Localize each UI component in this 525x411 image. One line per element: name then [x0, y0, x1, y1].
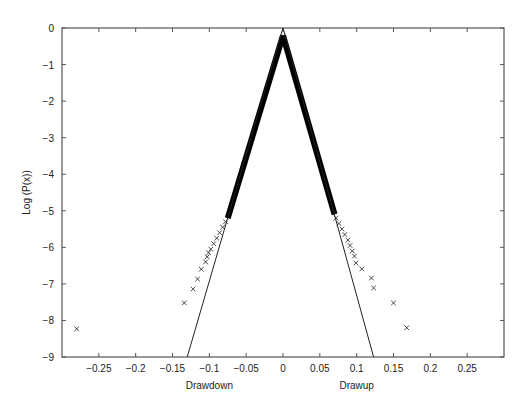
y-tick-label: −7 — [43, 279, 55, 290]
data-point-x-marker — [350, 249, 355, 254]
data-point-x-marker — [404, 325, 409, 330]
y-tick-label: −5 — [43, 206, 55, 217]
y-tick-label: −4 — [43, 169, 55, 180]
data-point-x-marker — [371, 286, 376, 291]
fit-line — [187, 28, 283, 357]
data-point-x-marker — [74, 327, 79, 332]
data-point-x-marker — [391, 301, 396, 306]
data-point-x-marker — [352, 254, 357, 259]
fit-line — [283, 28, 374, 357]
y-tick-label: −3 — [43, 133, 55, 144]
x-tick-label: 0.2 — [423, 363, 437, 374]
data-point-x-marker — [369, 276, 374, 281]
y-tick-label: −8 — [43, 315, 55, 326]
data-point-x-marker — [340, 227, 345, 232]
plot-border — [62, 28, 504, 357]
data-point-x-marker — [211, 241, 216, 246]
x-tick-label: −0.2 — [126, 363, 146, 374]
x-tick-label: 0 — [280, 363, 286, 374]
x-tick-label: 0.1 — [350, 363, 364, 374]
x-tick-label: −0.15 — [160, 363, 186, 374]
x-tick-label: 0.05 — [310, 363, 330, 374]
y-axis-label: Log (P(x)) — [21, 170, 32, 214]
chart: −0.25−0.2−0.15−0.1−0.0500.050.10.150.20.… — [0, 0, 525, 411]
data-point-x-marker — [343, 232, 348, 237]
x-tick-label: 0.25 — [457, 363, 477, 374]
y-tick-label: −6 — [43, 242, 55, 253]
x-axis-label-drawdown: Drawdown — [186, 380, 233, 391]
data-point-x-marker — [217, 230, 222, 235]
x-tick-label: −0.05 — [234, 363, 260, 374]
x-tick-label: −0.25 — [86, 363, 112, 374]
y-tick-label: −2 — [43, 96, 55, 107]
data-point-x-marker — [203, 260, 208, 265]
data-point-x-marker — [182, 301, 187, 306]
data-point-x-marker — [191, 287, 196, 292]
plot-frame — [62, 28, 504, 357]
data-point-x-marker — [348, 243, 353, 248]
data-point-x-marker — [354, 261, 359, 266]
plot-series — [74, 28, 409, 357]
data-point-x-marker — [214, 236, 219, 241]
x-tick-label: 0.15 — [384, 363, 404, 374]
data-point-x-marker — [205, 255, 210, 260]
y-tick-label: −9 — [43, 352, 55, 363]
x-tick-label: −0.1 — [199, 363, 219, 374]
data-point-x-marker — [195, 277, 200, 282]
data-point-x-marker — [346, 238, 351, 243]
data-point-x-marker — [199, 267, 204, 272]
y-tick-label: −1 — [43, 60, 55, 71]
data-point-x-marker — [360, 267, 365, 272]
y-tick-label: 0 — [48, 23, 54, 34]
x-axis-label-drawup: Drawup — [339, 380, 374, 391]
axis-labels: Log (P(x)) Drawdown Drawup — [21, 170, 374, 391]
